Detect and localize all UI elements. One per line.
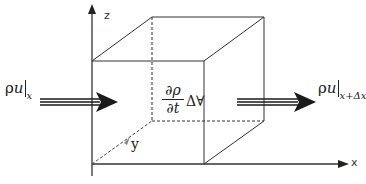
x-axis-label: x bbox=[351, 157, 358, 168]
fraction-denominator: ∂t bbox=[162, 101, 184, 116]
outflow-label: ρux+Δx bbox=[318, 80, 366, 101]
inflow-arrow bbox=[40, 92, 118, 112]
z-axis bbox=[88, 4, 96, 176]
evaluation-bar bbox=[338, 80, 339, 97]
outflow-velocity-symbol: u bbox=[327, 79, 337, 97]
outflow-density-symbol: ρ bbox=[318, 79, 327, 97]
fraction-numerator: ∂ρ bbox=[162, 83, 184, 98]
z-axis-label: z bbox=[104, 10, 110, 21]
y-axis bbox=[92, 121, 152, 164]
storage-term-fraction: ∂ρ ∂t bbox=[162, 83, 184, 116]
y-axis-label: y bbox=[131, 137, 139, 151]
volume-element-label: Δ∀ bbox=[186, 93, 205, 109]
x-axis bbox=[92, 160, 349, 168]
inflow-label: ρux bbox=[5, 80, 32, 101]
outflow-arrow bbox=[237, 92, 316, 112]
outflow-subscript: x+Δx bbox=[340, 90, 366, 101]
inflow-velocity-symbol: u bbox=[14, 79, 24, 97]
inflow-subscript: x bbox=[27, 90, 33, 101]
evaluation-bar bbox=[25, 80, 26, 97]
inflow-density-symbol: ρ bbox=[5, 79, 14, 97]
